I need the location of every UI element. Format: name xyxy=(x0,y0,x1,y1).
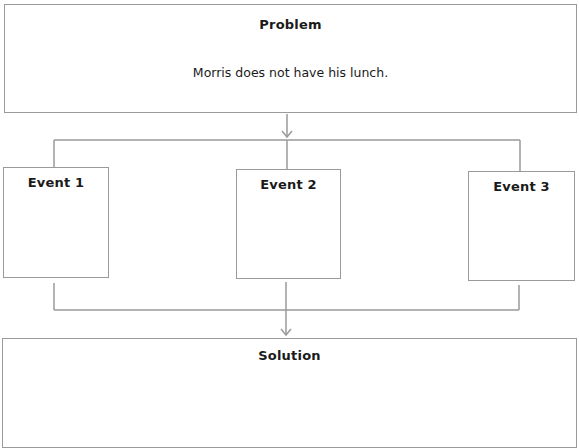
problem-text[interactable]: Morris does not have his lunch. xyxy=(5,65,576,80)
event-3-box[interactable]: Event 3 xyxy=(468,171,575,281)
arrow-head-icon xyxy=(281,329,291,335)
event-2-title: Event 2 xyxy=(237,177,340,192)
arrow-head-icon xyxy=(282,131,292,137)
problem-box: Problem Morris does not have his lunch. xyxy=(4,4,577,113)
solution-title: Solution xyxy=(3,348,576,363)
event-1-title: Event 1 xyxy=(4,175,108,190)
event-2-box[interactable]: Event 2 xyxy=(236,169,341,279)
event-3-title: Event 3 xyxy=(469,179,574,194)
solution-box[interactable]: Solution xyxy=(2,338,577,448)
event-1-box[interactable]: Event 1 xyxy=(3,167,109,278)
problem-title: Problem xyxy=(5,17,576,32)
